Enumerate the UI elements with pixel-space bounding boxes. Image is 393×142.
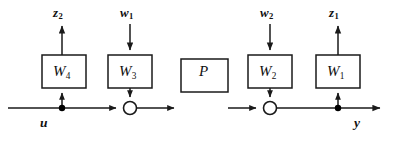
signal-w1-subscript: 1 [129,11,133,21]
signal-z2-subscript: 2 [58,11,62,21]
io-label-u: u [40,116,48,130]
block-label-W1: W1 [327,64,344,79]
signal-label-w2: w2 [260,6,273,19]
block-label-W4: W4 [53,64,70,79]
signal-label-z2: z2 [53,6,62,19]
signal-w1-base: w [120,5,129,20]
block-W2-subscript: 2 [272,71,277,81]
block-W4-base: W [53,63,66,79]
signal-w2-base: w [260,5,269,20]
block-P-base: P [199,63,208,79]
block-W4-subscript: 4 [66,71,71,81]
block-label-W3: W3 [119,64,136,79]
block-W1-base: W [327,63,340,79]
block-W1-subscript: 1 [340,71,345,81]
io-label-y: y [354,116,360,130]
block-label-W2: W2 [259,64,276,79]
io-y-base: y [354,115,360,130]
summing-junction-2[interactable] [264,102,277,115]
branch-node-y [335,105,341,111]
block-label-P: P [199,64,208,79]
signal-label-w1: w1 [120,6,133,19]
branch-node-u [59,105,65,111]
block-diagram-figure: z2 w1 w2 z1 W4 W3 P W2 W1 u y [0,0,393,142]
io-u-base: u [40,115,48,130]
signal-z1-subscript: 1 [334,11,338,21]
signal-label-z1: z1 [329,6,338,19]
block-W3-subscript: 3 [132,71,137,81]
summing-junction-1[interactable] [124,102,137,115]
block-W3-base: W [119,63,132,79]
block-W2-base: W [259,63,272,79]
signal-w2-subscript: 2 [269,11,273,21]
